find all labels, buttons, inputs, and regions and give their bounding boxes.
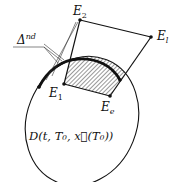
arc-endpoint-right xyxy=(118,78,121,81)
arc-endpoint-left xyxy=(37,85,41,89)
vertex-el xyxy=(149,35,153,39)
label-region-d: D(t, T₀, x⃗(T₀)) xyxy=(28,129,113,143)
label-e2: E2 xyxy=(72,4,87,20)
vertex-ee xyxy=(108,94,112,98)
label-el: El xyxy=(156,29,169,45)
label-delta-nd: Δnd xyxy=(16,32,36,47)
label-e1: E1 xyxy=(48,86,63,102)
diagram-canvas: E2 El E1 Ee Δnd D(t, T₀, x⃗(T₀)) xyxy=(0,0,175,182)
polygon-edge-e2-el xyxy=(80,20,151,37)
vertex-e1 xyxy=(62,82,66,86)
label-ee: Ee xyxy=(100,100,115,116)
